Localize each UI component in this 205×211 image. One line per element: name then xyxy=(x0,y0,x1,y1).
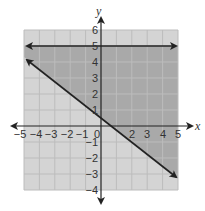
x-tick-label: 4 xyxy=(160,128,166,140)
y-tick-label: −3 xyxy=(85,168,98,180)
y-tick-label: 5 xyxy=(92,40,98,52)
y-tick-label: −2 xyxy=(85,152,98,164)
y-tick-label: −4 xyxy=(85,184,98,196)
y-tick-label: 4 xyxy=(92,56,98,68)
x-tick-label: 2 xyxy=(129,128,135,140)
y-tick-label: 2 xyxy=(92,88,98,100)
y-tick-label: 1 xyxy=(92,104,98,116)
x-tick-label: −5 xyxy=(14,128,27,140)
x-axis-label: x xyxy=(194,119,201,133)
x-tick-label: −3 xyxy=(45,128,58,140)
x-tick-label: 5 xyxy=(175,128,181,140)
y-axis-label: y xyxy=(95,4,102,18)
coordinate-plane: y x −5−4−3−2−102345 654321−1−2−3−4 xyxy=(0,0,205,211)
y-tick-label: 3 xyxy=(92,72,98,84)
y-tick-label: −1 xyxy=(85,136,98,148)
x-tick-label: 3 xyxy=(144,128,150,140)
y-tick-label: 6 xyxy=(92,24,98,36)
x-tick-label: −4 xyxy=(30,128,43,140)
x-tick-label: −2 xyxy=(61,128,74,140)
